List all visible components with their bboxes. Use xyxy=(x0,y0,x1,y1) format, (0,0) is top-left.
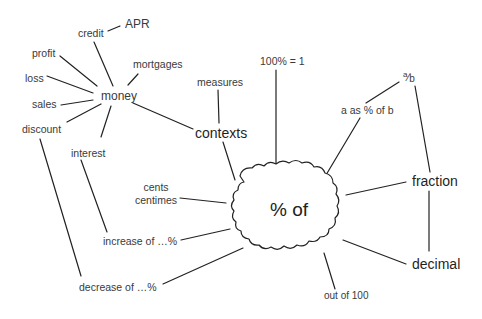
node-mortgages: mortgages xyxy=(133,59,183,70)
edge-increase-percent-of xyxy=(181,229,230,240)
concept-map-diagram: APR credit profit mortgages loss money s… xyxy=(0,0,482,319)
node-decimal: decimal xyxy=(412,257,460,271)
node-apr: APR xyxy=(125,18,150,30)
edge-a-over-b-fraction xyxy=(415,86,430,172)
node-increase-of: increase of …% xyxy=(103,236,177,247)
center-node-percent-of: % of xyxy=(270,200,308,219)
node-a-over-b: a⁄b xyxy=(403,71,415,84)
edge-decrease-percent-of xyxy=(163,248,243,284)
node-loss: loss xyxy=(25,73,44,84)
edge-money-discount xyxy=(67,104,101,122)
edge-cents-percent-of xyxy=(180,198,226,203)
edge-money-credit xyxy=(94,42,113,86)
node-cents-centimes: cents centimes xyxy=(135,181,177,207)
edge-money-mortgages xyxy=(128,74,138,85)
edge-fraction-percent-of xyxy=(346,182,406,195)
fraction-denominator: b xyxy=(409,73,415,84)
node-sales: sales xyxy=(32,99,57,110)
edge-money-sales xyxy=(61,100,93,105)
node-centimes: centimes xyxy=(135,194,177,207)
connector-lines xyxy=(0,0,482,319)
node-decrease-of: decrease of …% xyxy=(79,282,157,293)
edge-decimal-percent-of xyxy=(343,240,406,264)
edge-measures-contexts xyxy=(218,90,219,123)
edge-money-interest xyxy=(101,106,111,137)
node-fraction: fraction xyxy=(412,174,458,188)
node-a-as-percent-of-b: a as % of b xyxy=(341,105,394,116)
edge-out-of-100-percent-of xyxy=(324,253,335,289)
node-contexts: contexts xyxy=(195,126,247,140)
node-interest: interest xyxy=(71,148,105,159)
edge-a-as-percent-a-over-b xyxy=(366,82,399,103)
node-out-of-100: out of 100 xyxy=(324,291,368,301)
node-cents: cents xyxy=(135,181,177,194)
edge-contexts-percent-of xyxy=(223,142,235,180)
edge-money-loss xyxy=(47,76,93,93)
edge-interest-increase xyxy=(81,160,107,232)
node-credit: credit xyxy=(78,28,104,39)
edge-money-profit xyxy=(60,56,97,86)
edge-a-as-percent-percent-of xyxy=(326,118,360,175)
node-money: money xyxy=(101,90,137,102)
node-100-percent-equals-1: 100% = 1 xyxy=(260,56,305,67)
edge-money-contexts xyxy=(133,103,193,129)
node-measures: measures xyxy=(197,77,243,88)
edge-discount-decrease xyxy=(40,139,81,276)
node-discount: discount xyxy=(22,124,61,135)
edge-credit-apr xyxy=(108,26,120,31)
node-profit: profit xyxy=(32,48,55,59)
